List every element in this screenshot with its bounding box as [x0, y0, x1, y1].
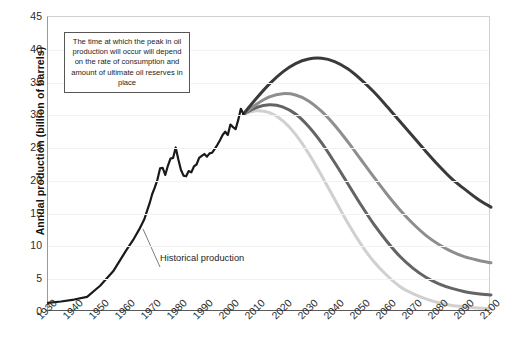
series-line-0: [48, 109, 243, 303]
gridline-30: [48, 115, 489, 116]
y-tick-5: 5: [16, 272, 42, 284]
y-tick-10: 10: [16, 239, 42, 251]
gridline-20: [48, 181, 489, 182]
y-tick-30: 30: [16, 108, 42, 120]
gridline-15: [48, 214, 489, 215]
gridline-10: [48, 246, 489, 247]
series-line-1: [243, 58, 491, 207]
y-tick-25: 25: [16, 141, 42, 153]
gridline-25: [48, 148, 489, 149]
y-tick-20: 20: [16, 174, 42, 186]
y-tick-40: 40: [16, 43, 42, 55]
historical-production-label: Historical production: [160, 253, 244, 263]
y-tick-35: 35: [16, 76, 42, 88]
y-axis-tick-labels: 051015202530354045: [12, 0, 42, 344]
x-axis-tick-labels: 1930194019501960197019801990200020102020…: [0, 313, 507, 344]
peak-oil-note: The time at which the peak in oil produc…: [64, 32, 190, 93]
chart-container: Annual production (billion of barrels) 0…: [0, 0, 507, 344]
gridline-5: [48, 279, 489, 280]
y-tick-15: 15: [16, 207, 42, 219]
series-line-3: [243, 105, 491, 295]
y-tick-45: 45: [16, 10, 42, 22]
